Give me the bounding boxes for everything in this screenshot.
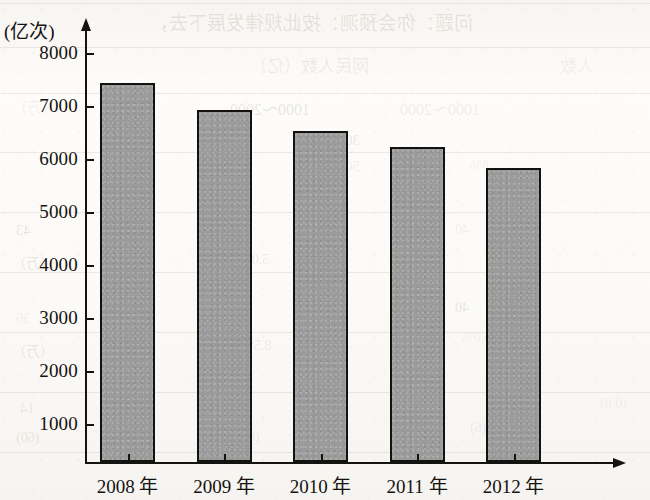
bar-texture bbox=[295, 133, 346, 460]
x-axis-tick-mark bbox=[224, 454, 226, 462]
x-axis-tick-mark bbox=[514, 454, 516, 462]
bar-texture bbox=[102, 85, 153, 460]
y-axis-tick-label: 7000 bbox=[10, 95, 78, 117]
bar bbox=[390, 147, 445, 462]
x-axis-tick-mark bbox=[321, 454, 323, 462]
y-axis-arrow-icon bbox=[81, 18, 91, 31]
y-axis-tick-mark bbox=[85, 106, 94, 108]
bar-texture bbox=[199, 112, 250, 460]
y-axis-tick-mark bbox=[85, 212, 94, 214]
y-axis-tick-mark bbox=[85, 424, 94, 426]
x-axis-tick-mark bbox=[417, 454, 419, 462]
x-axis-arrow-icon bbox=[613, 458, 626, 468]
bar bbox=[293, 131, 348, 462]
y-axis-tick-label: 3000 bbox=[10, 307, 78, 329]
bar bbox=[197, 110, 252, 462]
y-axis-tick-label: 8000 bbox=[10, 42, 78, 64]
y-axis-title: (亿次) bbox=[4, 16, 55, 43]
y-axis-tick-mark bbox=[85, 265, 94, 267]
bar bbox=[100, 83, 155, 462]
x-axis-tick-mark bbox=[128, 454, 130, 462]
y-axis-tick-label: 6000 bbox=[10, 148, 78, 170]
bar-chart: (亿次) 80007000600050004000300020001000 20… bbox=[0, 0, 650, 500]
bar bbox=[486, 168, 541, 462]
y-axis-tick-mark bbox=[85, 371, 94, 373]
y-axis-tick-label: 1000 bbox=[10, 413, 78, 435]
y-axis-tick-mark bbox=[85, 318, 94, 320]
x-axis-line bbox=[85, 462, 613, 464]
y-axis-tick-mark bbox=[85, 159, 94, 161]
y-axis-line bbox=[85, 30, 87, 464]
y-axis-tick-label: 5000 bbox=[10, 201, 78, 223]
y-axis-tick-label: 4000 bbox=[10, 254, 78, 276]
y-axis-tick-label: 2000 bbox=[10, 360, 78, 382]
bar-texture bbox=[488, 170, 539, 460]
y-axis-tick-mark bbox=[85, 53, 94, 55]
bar-texture bbox=[392, 149, 443, 460]
x-axis-tick-label: 2012 年 bbox=[454, 471, 574, 498]
